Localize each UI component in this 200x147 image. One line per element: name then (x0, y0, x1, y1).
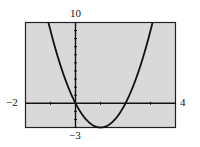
ymin-label: −3 (69, 130, 81, 141)
screen-background (26, 23, 176, 128)
xmax-label: 4 (180, 97, 186, 108)
xmin-label: −2 (6, 97, 18, 108)
plot-area (0, 0, 200, 147)
ymax-label: 10 (70, 8, 81, 19)
